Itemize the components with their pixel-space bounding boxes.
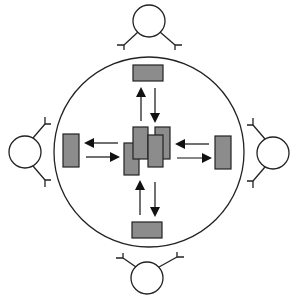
agent-arm — [123, 258, 136, 267]
agent-top-icon — [117, 5, 182, 50]
peripheral-box-bottom — [132, 222, 162, 238]
agent-hand — [175, 45, 182, 50]
agent-hand — [247, 118, 253, 125]
peripheral-box-right — [215, 136, 231, 169]
agent-hand — [116, 253, 123, 258]
agent-hand — [117, 45, 124, 50]
peripheral-box-left — [63, 134, 79, 167]
agent-head-circle — [9, 136, 41, 168]
agent-arm — [124, 32, 138, 45]
agent-arm — [160, 32, 175, 45]
agent-hand — [247, 181, 253, 188]
agent-hand — [177, 252, 184, 257]
diagram-canvas — [0, 0, 296, 304]
agent-arm — [253, 125, 265, 139]
agent-hand — [45, 117, 51, 124]
agent-arm — [253, 167, 265, 181]
agent-bottom-icon — [116, 252, 184, 294]
agent-left-icon — [9, 117, 51, 187]
center-box-4 — [148, 135, 163, 167]
agent-arm — [33, 124, 45, 138]
agent-right-icon — [247, 118, 289, 188]
agent-arm — [33, 166, 45, 180]
center-boxes-layer — [124, 127, 170, 175]
center-box-3 — [133, 127, 148, 159]
agent-arm — [159, 257, 177, 267]
peripheral-box-top — [133, 65, 163, 81]
agent-head-circle — [257, 137, 289, 169]
agent-hand — [45, 180, 51, 187]
